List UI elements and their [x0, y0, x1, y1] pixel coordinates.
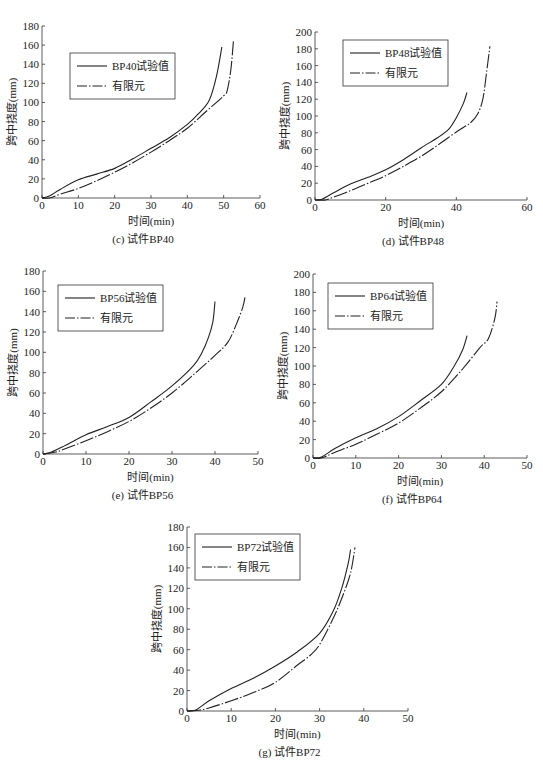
- y-tick-label: 140: [168, 562, 185, 574]
- y-tick-label: 180: [296, 43, 313, 55]
- y-tick-label: 160: [294, 305, 311, 317]
- y-tick-label: 60: [28, 135, 40, 147]
- legend-label: 有限元: [385, 66, 418, 79]
- series-test-line: [313, 336, 467, 458]
- figure-caption: (c) 试件BP40: [112, 233, 174, 246]
- chart-svg-e: 01020304050020406080100120140160180时间(mi…: [0, 255, 272, 510]
- y-tick-label: 160: [23, 39, 40, 51]
- y-tick-label: 20: [28, 173, 40, 185]
- y-tick-label: 20: [301, 177, 313, 189]
- y-tick-label: 120: [296, 93, 313, 105]
- x-tick-label: 50: [218, 199, 230, 211]
- y-axis-title: 跨中挠度(mm): [278, 81, 292, 150]
- legend-label: BP40试验值: [112, 59, 169, 72]
- x-tick-label: 20: [109, 199, 121, 211]
- y-tick-label: 40: [301, 160, 313, 172]
- x-tick-label: 0: [40, 455, 46, 467]
- y-tick-label: 80: [301, 127, 313, 139]
- chart-panel-f: 01020304050020406080100120140160180200时间…: [272, 255, 543, 510]
- y-tick-label: 0: [35, 448, 41, 460]
- legend: BP48试验值有限元: [343, 40, 448, 86]
- y-axis-title: 跨中挠度(mm): [276, 331, 290, 400]
- x-tick-label: 40: [358, 712, 370, 724]
- y-tick-label: 80: [173, 623, 185, 635]
- x-tick-label: 40: [210, 455, 222, 467]
- y-tick-label: 120: [168, 582, 185, 594]
- x-tick-label: 0: [310, 459, 316, 471]
- x-tick-label: 20: [124, 455, 136, 467]
- y-tick-label: 120: [24, 326, 41, 338]
- x-tick-label: 30: [314, 712, 326, 724]
- x-tick-label: 10: [73, 199, 85, 211]
- chart-svg-d: 0204060020406080100120140160180200时间(min…: [272, 0, 543, 255]
- y-tick-label: 100: [294, 360, 311, 372]
- legend: BP72试验值有限元: [195, 534, 300, 580]
- chart-svg-g: 01020304050020406080100120140160180时间(mi…: [140, 510, 430, 771]
- y-tick-label: 120: [294, 342, 311, 354]
- x-tick-label: 40: [451, 201, 463, 213]
- y-tick-label: 60: [299, 397, 311, 409]
- legend-label: BP72试验值: [237, 540, 294, 553]
- y-tick-label: 160: [24, 285, 41, 297]
- x-tick-label: 20: [380, 201, 392, 213]
- y-tick-label: 20: [173, 685, 185, 697]
- chart-panel-d: 0204060020406080100120140160180200时间(min…: [272, 0, 543, 255]
- x-tick-label: 0: [312, 201, 318, 213]
- x-tick-label: 10: [350, 459, 362, 471]
- x-tick-label: 30: [436, 459, 448, 471]
- y-tick-label: 100: [23, 96, 40, 108]
- y-tick-label: 80: [299, 378, 311, 390]
- y-tick-label: 180: [23, 20, 40, 32]
- y-tick-label: 0: [179, 705, 185, 717]
- legend-label: 有限元: [237, 560, 270, 573]
- y-tick-label: 160: [168, 541, 185, 553]
- y-axis-title: 跨中挠度(mm): [5, 77, 19, 146]
- y-tick-label: 200: [296, 26, 313, 38]
- y-tick-label: 100: [24, 346, 41, 358]
- chart-panel-e: 01020304050020406080100120140160180时间(mi…: [0, 255, 272, 510]
- chart-panel-g: 01020304050020406080100120140160180时间(mi…: [140, 510, 430, 771]
- x-tick-label: 30: [167, 455, 179, 467]
- legend-label: BP56试验值: [100, 291, 157, 304]
- x-axis-title: 时间(min): [397, 475, 444, 488]
- chart-panel-c: 0102030405060020406080100120140160180时间(…: [0, 0, 272, 255]
- x-tick-label: 0: [184, 712, 190, 724]
- y-tick-label: 20: [299, 434, 311, 446]
- x-tick-label: 20: [270, 712, 282, 724]
- x-tick-label: 60: [255, 199, 267, 211]
- x-tick-label: 40: [479, 459, 491, 471]
- legend-label: BP48试验值: [385, 46, 442, 59]
- y-tick-label: 20: [29, 428, 41, 440]
- chart-svg-c: 0102030405060020406080100120140160180时间(…: [0, 0, 272, 255]
- x-tick-label: 50: [403, 712, 415, 724]
- legend: BP56试验值有限元: [58, 285, 163, 331]
- y-tick-label: 100: [168, 603, 185, 615]
- y-tick-label: 120: [23, 77, 40, 89]
- x-tick-label: 40: [182, 199, 194, 211]
- y-tick-label: 40: [28, 154, 40, 166]
- series-test-line: [315, 92, 467, 200]
- y-tick-label: 40: [299, 415, 311, 427]
- x-tick-label: 50: [253, 455, 265, 467]
- figure-caption: (g) 试件BP72: [258, 746, 320, 759]
- y-tick-label: 0: [34, 192, 40, 204]
- x-axis-title: 时间(min): [398, 217, 445, 230]
- chart-svg-f: 01020304050020406080100120140160180200时间…: [272, 255, 543, 510]
- x-axis-title: 时间(min): [274, 728, 321, 741]
- y-tick-label: 60: [301, 144, 313, 156]
- y-tick-label: 40: [29, 407, 41, 419]
- legend-label: BP64试验值: [370, 289, 427, 302]
- legend-label: 有限元: [112, 79, 145, 92]
- x-tick-label: 20: [393, 459, 405, 471]
- y-tick-label: 180: [168, 521, 185, 533]
- legend-label: 有限元: [370, 309, 403, 322]
- y-axis-title: 跨中挠度(mm): [6, 328, 20, 397]
- x-tick-label: 30: [146, 199, 158, 211]
- figure-caption: (f) 试件BP64: [382, 493, 443, 506]
- y-tick-label: 60: [173, 644, 185, 656]
- y-tick-label: 140: [296, 76, 313, 88]
- legend-label: 有限元: [100, 311, 133, 324]
- y-tick-label: 0: [305, 452, 311, 464]
- y-tick-label: 100: [296, 110, 313, 122]
- legend: BP40试验值有限元: [70, 53, 175, 99]
